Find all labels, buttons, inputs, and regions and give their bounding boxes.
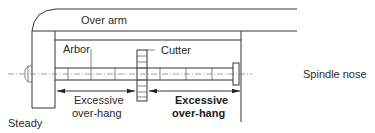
over-arm-label: Over arm (81, 14, 127, 26)
over-arm (32, 9, 297, 31)
over-arm-top-edge (32, 9, 297, 31)
steady (25, 31, 55, 108)
cutter (137, 50, 147, 101)
cutter-body (137, 50, 147, 101)
overhang-left-label-1: Excessive (74, 94, 124, 106)
steady-label: Steady (8, 117, 43, 129)
arbor-label: Arbor (63, 43, 90, 55)
cutter-label: Cutter (161, 44, 191, 56)
milling-arbor-diagram: Over arm Arbor Cutter Spindle nose Stead… (0, 0, 375, 133)
arbor (8, 63, 252, 85)
spindle-nose-label: Spindle nose (303, 68, 367, 80)
overhang-left-label-2: over-hang (72, 107, 122, 119)
overhang-right-label-2: over-hang (172, 107, 225, 119)
overhang-right-label-1: Excessive (175, 94, 228, 106)
